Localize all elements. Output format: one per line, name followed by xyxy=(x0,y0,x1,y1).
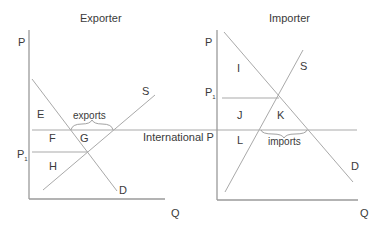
importer-region-l: L xyxy=(237,134,243,146)
exporter-panel: Exporter P Q S D P1 E F G H exports xyxy=(17,12,180,219)
exporter-demand-label: D xyxy=(119,184,127,196)
importer-region-j: J xyxy=(237,109,243,121)
exporter-title: Exporter xyxy=(80,12,122,24)
trade-diagram-canvas: Exporter P Q S D P1 E F G H exports xyxy=(0,0,384,229)
exports-brace xyxy=(71,120,113,130)
exporter-price-axis-label: P xyxy=(18,36,25,48)
exporter-region-h: H xyxy=(49,160,57,172)
exports-label: exports xyxy=(73,110,106,121)
exporter-autarky-price-label: P1 xyxy=(17,148,28,162)
importer-autarky-price-label: P1 xyxy=(205,86,216,100)
international-price-label: International P xyxy=(143,131,214,143)
importer-panel: Importer P Q S D P1 I J K L imports xyxy=(205,12,369,219)
importer-quantity-axis-label: Q xyxy=(360,207,369,219)
importer-price-axis-label: P xyxy=(205,36,212,48)
exporter-demand-curve xyxy=(32,79,117,191)
exporter-quantity-axis-label: Q xyxy=(171,207,180,219)
importer-region-k: K xyxy=(277,109,285,121)
importer-demand-label: D xyxy=(351,160,359,172)
importer-region-i: I xyxy=(237,62,240,74)
importer-supply-label: S xyxy=(300,60,307,72)
exporter-supply-label: S xyxy=(142,85,149,97)
exporter-region-g: G xyxy=(80,132,89,144)
exporter-region-f: F xyxy=(49,132,56,144)
exporter-region-e: E xyxy=(37,108,44,120)
trade-diagram: Exporter P Q S D P1 E F G H exports xyxy=(0,0,384,229)
imports-label: imports xyxy=(268,136,301,147)
importer-title: Importer xyxy=(269,12,310,24)
